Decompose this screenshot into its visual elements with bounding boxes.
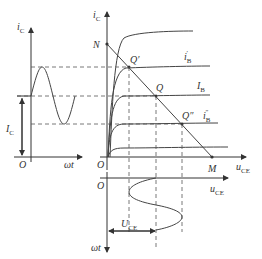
- main-plot: iC N Q′ Q Q″ M O uCE iB′ IB iB″: [92, 9, 250, 175]
- load-line-diagram: iC IC O ωt iC N Q′ Q Q″ M O uCE iB′ IB i…: [0, 0, 262, 259]
- bottom-origin-label: O: [97, 180, 104, 191]
- main-x-axis-label: uCE: [236, 161, 250, 175]
- bottom-plot: O uCE ωt UCE: [91, 172, 228, 253]
- label-ib-prime: iB′: [184, 49, 192, 65]
- left-plot: iC IC O ωt: [5, 21, 82, 170]
- main-origin-label: O: [97, 159, 104, 170]
- curve-ib-dprime: [108, 123, 218, 157]
- curve-ib-prime: [108, 66, 210, 157]
- label-q-prime: Q′: [130, 54, 140, 65]
- uce-dc-label: UCE: [121, 218, 137, 232]
- label-M: M: [207, 163, 217, 174]
- left-x-axis-label: ωt: [64, 159, 74, 170]
- point-N: [105, 42, 108, 45]
- bottom-x-axis-label: uCE: [210, 183, 224, 197]
- label-IB: IB: [196, 80, 205, 94]
- left-y-axis-label: iC: [17, 21, 25, 35]
- load-line: [107, 44, 212, 157]
- label-q: Q: [156, 82, 164, 93]
- uce-sine-wave: [129, 178, 182, 230]
- label-N: N: [92, 39, 101, 50]
- point-M: [210, 155, 213, 158]
- label-ib-dprime: iB″: [203, 108, 211, 124]
- ic-dc-label: IC: [5, 123, 14, 137]
- label-q-dprime: Q″: [182, 110, 194, 121]
- left-origin-label: O: [19, 159, 26, 170]
- ic-sine-wave: [31, 67, 75, 124]
- main-y-axis-label: iC: [93, 9, 101, 23]
- bottom-y-axis-label: ωt: [91, 242, 101, 253]
- curve-top: [110, 31, 193, 157]
